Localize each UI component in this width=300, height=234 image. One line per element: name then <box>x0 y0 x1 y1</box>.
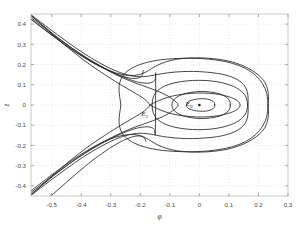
x-tick-label: -0.5 <box>46 201 57 208</box>
equilibrium-point-marker <box>198 104 201 107</box>
trajectory-closed-orbit-2 <box>172 91 230 118</box>
x-tick-label: -0.1 <box>165 201 176 208</box>
gridlines <box>31 14 288 196</box>
y-tick-label: 0 <box>23 101 27 108</box>
x-tick-label: 0.3 <box>284 201 293 208</box>
phase-portrait-plot: -0.5-0.4-0.3-0.2-0.100.10.20.3-0.4-0.3-0… <box>0 0 300 234</box>
x-tick-label: -0.2 <box>135 201 146 208</box>
plot-frame <box>31 14 288 196</box>
phase-portrait-figure: -0.5-0.4-0.3-0.2-0.100.10.20.3-0.4-0.3-0… <box>0 0 300 234</box>
trajectory-outer-trajectory-3 <box>30 18 144 78</box>
equilibrium-subscript: 0 <box>190 104 193 109</box>
y-tick-label: 0.2 <box>17 61 26 68</box>
equilibrium-label-center: E0 <box>185 100 193 109</box>
y-tick-label: 0.4 <box>17 20 26 27</box>
x-tick-label: 0.1 <box>225 201 234 208</box>
equilibrium-saddle: E1 <box>140 110 148 119</box>
equilibrium-label-saddle: E1 <box>140 110 148 119</box>
equilibrium-center: E0 <box>185 100 201 109</box>
equilibrium-subscript: 1 <box>146 114 149 119</box>
y-axis-label: z <box>2 103 11 107</box>
axes-frame <box>31 14 288 196</box>
x-tick-label: -0.4 <box>76 201 87 208</box>
x-axis-label: φ <box>157 212 161 221</box>
axis-ticks <box>31 14 288 196</box>
y-tick-label: 0.1 <box>17 81 26 88</box>
x-tick-label: 0.2 <box>254 201 263 208</box>
x-tick-label: -0.3 <box>105 201 116 208</box>
x-tick-label: 0 <box>198 201 202 208</box>
y-tick-label: -0.4 <box>15 182 26 189</box>
y-tick-label: -0.1 <box>15 121 26 128</box>
y-tick-label: 0.3 <box>17 41 26 48</box>
y-tick-label: -0.3 <box>15 162 26 169</box>
y-tick-label: -0.2 <box>15 142 26 149</box>
